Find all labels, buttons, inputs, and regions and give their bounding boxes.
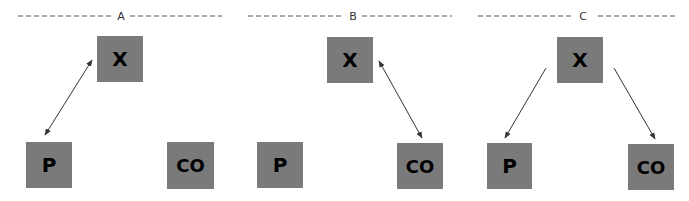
node-co: CO <box>167 142 214 189</box>
panel-label: A <box>117 10 125 23</box>
node-co: CO <box>397 143 443 189</box>
node-label: X <box>572 48 588 72</box>
panel-a: A X P CO <box>18 10 222 189</box>
node-p: P <box>26 142 72 188</box>
panel-label: C <box>579 10 587 23</box>
bidirectional-arrow-x-p <box>45 60 92 135</box>
node-label: P <box>42 153 57 177</box>
node-p: P <box>487 143 532 189</box>
node-label: CO <box>637 157 666 178</box>
node-x: X <box>97 36 143 82</box>
bidirectional-arrow-x-co <box>379 61 422 138</box>
node-label: P <box>502 154 517 178</box>
node-co: CO <box>628 144 674 190</box>
arrow-x-to-p <box>505 68 546 138</box>
panel-label: B <box>349 10 357 23</box>
causal-diagram: A X P CO B X P CO <box>0 0 689 201</box>
node-label: X <box>342 48 358 72</box>
node-p: P <box>257 142 303 188</box>
node-label: CO <box>176 155 205 176</box>
node-x: X <box>327 37 373 83</box>
node-label: P <box>273 153 288 177</box>
node-label: X <box>112 47 128 71</box>
panel-b: B X P CO <box>248 10 452 189</box>
node-label: CO <box>406 156 435 177</box>
panel-c: C X P CO <box>478 10 677 190</box>
node-x: X <box>557 37 603 83</box>
arrow-x-to-co <box>614 68 655 139</box>
